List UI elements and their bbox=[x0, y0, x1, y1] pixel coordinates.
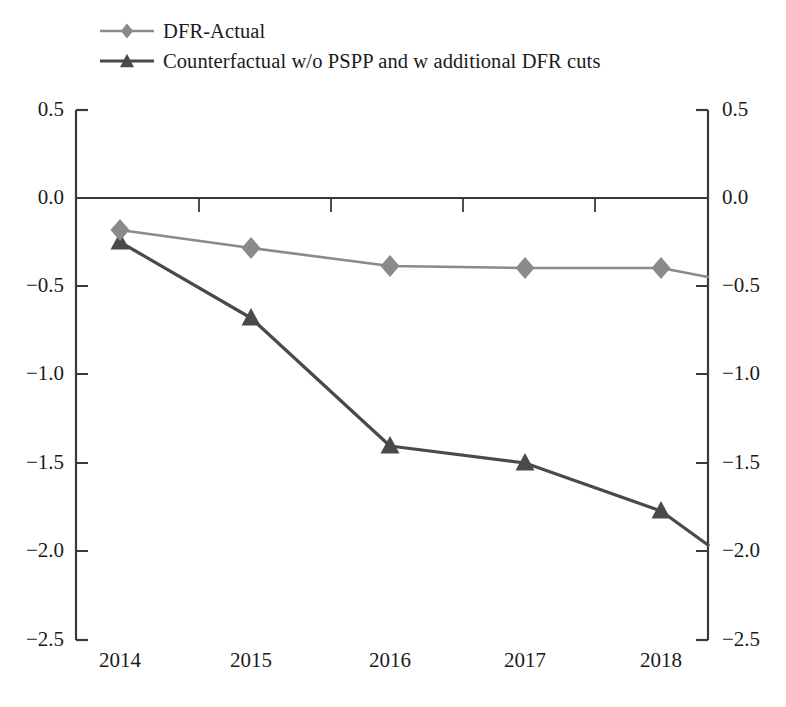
y-tick-label-right: 0.5 bbox=[722, 99, 748, 120]
x-tick-label-2015: 2015 bbox=[230, 650, 272, 671]
data-marker-diamond bbox=[652, 257, 671, 279]
plot-area bbox=[0, 0, 786, 707]
data-marker-triangle bbox=[242, 308, 261, 326]
x-tick-label-2018: 2018 bbox=[640, 650, 682, 671]
data-marker-diamond bbox=[242, 237, 261, 259]
series-dfr-actual bbox=[111, 219, 709, 279]
data-marker-diamond bbox=[516, 257, 535, 279]
y-tick-label-left: 0.0 bbox=[38, 187, 64, 208]
y-tick-label-left: −2.5 bbox=[26, 629, 64, 650]
x-tick-label-2017: 2017 bbox=[504, 650, 546, 671]
y-tick-label-right: −2.0 bbox=[722, 540, 760, 561]
y-tick-label-left: −1.0 bbox=[26, 363, 64, 384]
series-counterfactual bbox=[111, 232, 709, 545]
y-tick-label-left: 0.5 bbox=[38, 99, 64, 120]
y-tick-label-right: −0.5 bbox=[722, 275, 760, 296]
y-tick-label-left: −1.5 bbox=[26, 452, 64, 473]
right-axis-ticks bbox=[696, 286, 708, 551]
y-tick-label-right: −1.0 bbox=[722, 363, 760, 384]
x-tick-label-2014: 2014 bbox=[99, 650, 141, 671]
chart-figure: DFR-Actual Counterfactual w/o PSPP and w… bbox=[0, 0, 786, 707]
y-tick-label-right: −2.5 bbox=[722, 629, 760, 650]
y-tick-label-right: 0.0 bbox=[722, 187, 748, 208]
data-marker-diamond bbox=[111, 219, 130, 241]
zero-line bbox=[76, 198, 708, 212]
x-tick-label-2016: 2016 bbox=[369, 650, 411, 671]
left-axis-ticks bbox=[76, 286, 88, 551]
data-marker-diamond bbox=[381, 255, 400, 277]
y-tick-label-left: −2.0 bbox=[26, 540, 64, 561]
y-tick-label-right: −1.5 bbox=[722, 452, 760, 473]
y-tick-label-left: −0.5 bbox=[26, 275, 64, 296]
